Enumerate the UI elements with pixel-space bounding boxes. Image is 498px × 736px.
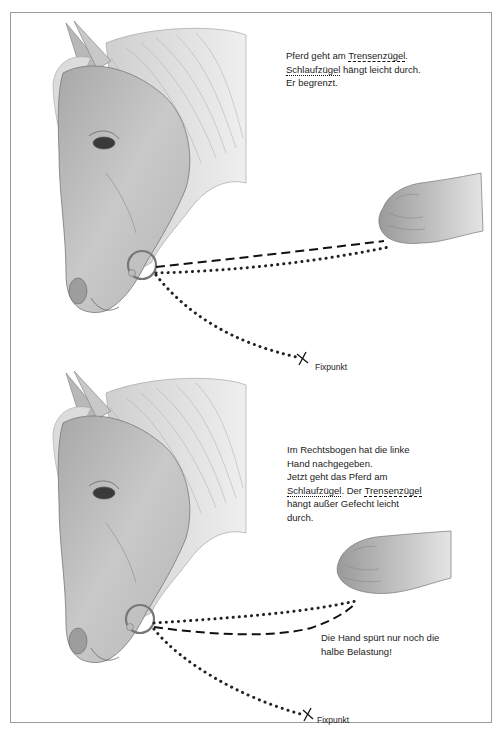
cropped-footer-text (0, 727, 200, 736)
schlaufzuegel-rein-hand (154, 601, 356, 623)
figure-frame: Pferd geht am Trensenzügel. Schlaufzügel… (10, 12, 492, 723)
caption-text: hängt leicht durch. (340, 64, 420, 75)
trensenzuegel-rein (154, 603, 356, 634)
schlaufzuegel-rein-fixpoint (156, 275, 301, 358)
schlaufzuegel-term: Schlaufzügel (286, 64, 340, 76)
schlaufzuegel-rein-fixpoint (154, 629, 304, 715)
load-note: Die Hand spürt nur noch die halbe Belast… (321, 631, 439, 658)
trensenzuegel-term: Trensenzügel (348, 50, 405, 62)
schlaufzuegel-term: Schlaufzügel (287, 485, 341, 497)
caption-text: Jetzt geht das Pferd am (287, 470, 422, 484)
caption-text: hängt außer Gefecht leicht (287, 497, 422, 511)
bottom-panel: Im Rechtsbogen hat die linke Hand nachge… (11, 363, 491, 723)
top-caption: Pferd geht am Trensenzügel. Schlaufzügel… (286, 49, 421, 90)
top-panel: Pferd geht am Trensenzügel. Schlaufzügel… (11, 13, 491, 373)
caption-text: Pferd geht am (286, 50, 348, 61)
caption-text: durch. (287, 511, 422, 525)
horse-head-icon (53, 371, 246, 663)
caption-text: . (405, 50, 408, 61)
schlaufzuegel-rein-hand (156, 247, 389, 273)
hand-icon (379, 173, 483, 244)
hand-icon (337, 531, 451, 594)
cross-icon (303, 708, 313, 721)
note-text: halbe Belastung! (321, 645, 439, 659)
caption-text: Im Rechtsbogen hat die linke (287, 443, 422, 457)
caption-text: . Der (341, 485, 364, 496)
caption-text: Er begrenzt. (286, 76, 421, 90)
trensenzuegel-term: Trensenzügel (364, 485, 421, 497)
fixpoint-label: Fixpunkt (317, 715, 349, 725)
bottom-illustration (11, 363, 491, 723)
bottom-caption: Im Rechtsbogen hat die linke Hand nachge… (287, 443, 422, 524)
note-text: Die Hand spürt nur noch die (321, 631, 439, 645)
caption-text: Hand nachgegeben. (287, 457, 422, 471)
